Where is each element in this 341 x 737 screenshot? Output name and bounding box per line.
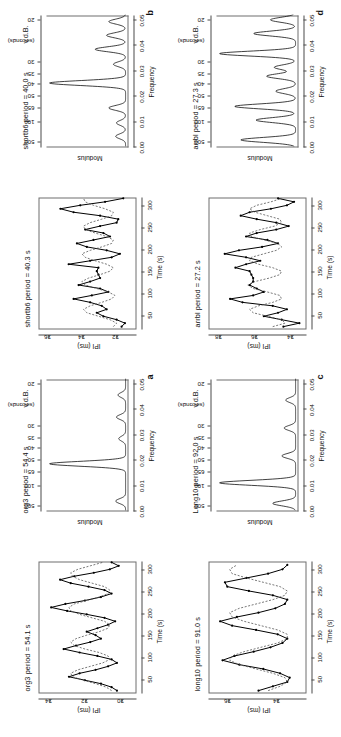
x-tick-mark <box>303 383 306 384</box>
period-tick-mark <box>37 383 40 384</box>
x-tick-mark <box>303 510 306 511</box>
period-tick-mark <box>207 121 210 122</box>
x-axis-label: Time (s) <box>325 255 332 279</box>
period-tick-mark <box>207 95 210 96</box>
period-tick-label: 35 <box>27 70 34 77</box>
period-tick-label: 50 <box>197 456 204 463</box>
period-tick-mark <box>207 141 210 142</box>
period-tick-label: 35 <box>197 70 204 77</box>
x-tick-label: 300 <box>315 562 322 576</box>
period-tick-label: 30 <box>197 58 204 65</box>
x-tick-mark <box>133 70 136 71</box>
x-axis <box>133 379 134 511</box>
x-tick-mark <box>141 249 144 250</box>
x-tick-label: 0.03 <box>307 62 314 80</box>
period-tick-mark <box>207 505 210 506</box>
period-tick-label: 30 <box>27 58 34 65</box>
x-tick-label: 250 <box>145 220 152 234</box>
period-tick-mark <box>37 459 40 460</box>
period-axis <box>210 15 211 147</box>
y-tick-label: 36 <box>40 333 54 340</box>
x-tick-label: 0.04 <box>307 400 314 418</box>
period-axis-unit: (seconds) <box>177 401 204 408</box>
y-tick-label: 36 <box>247 333 261 340</box>
x-tick-mark <box>303 485 306 486</box>
y-tick-label: 32 <box>108 333 122 340</box>
period-tick-label: 30 <box>197 422 204 429</box>
period-tick-label: 65 <box>27 104 34 111</box>
panel-b-spectrum: shortb6 period = 40.0 sv.d.B.50010065504… <box>16 7 166 177</box>
period-axis-unit: (seconds) <box>177 37 204 44</box>
x-tick-mark <box>133 95 136 96</box>
panel-letter-b: b <box>144 10 154 16</box>
period-tick-label: 20 <box>27 380 34 387</box>
x-tick-mark <box>311 227 314 228</box>
x-tick-mark <box>133 121 136 122</box>
spectrum-curve <box>46 378 128 510</box>
period-tick-mark <box>207 107 210 108</box>
plot-area <box>38 197 136 329</box>
panel-d-timeseries: arrbl period = 27.2 s50100150200250300Ti… <box>186 189 336 359</box>
period-tick-label: 100 <box>194 482 204 489</box>
period-tick-label: 35 <box>27 434 34 441</box>
x-tick-mark <box>311 591 314 592</box>
period-tick-label: 500 <box>194 138 204 145</box>
x-tick-label: 0.04 <box>137 400 144 418</box>
period-tick-mark <box>37 95 40 96</box>
plot-area <box>216 15 298 147</box>
x-tick-mark <box>141 613 144 614</box>
x-tick-mark <box>303 146 306 147</box>
x-tick-mark <box>141 315 144 316</box>
plot-area <box>46 15 128 147</box>
period-tick-label: 20 <box>197 16 204 23</box>
period-tick-label: 100 <box>24 482 34 489</box>
x-tick-label: 0.05 <box>307 11 314 29</box>
x-tick-mark <box>141 227 144 228</box>
panel-letter-a: a <box>144 374 154 379</box>
period-tick-mark <box>207 485 210 486</box>
period-tick-label: 65 <box>197 104 204 111</box>
panel-d-spectrum: arrbl period = 27.3 sv.d.B.5001006550403… <box>186 7 336 177</box>
period-tick-label: 500 <box>24 138 34 145</box>
x-tick-label: 0.05 <box>137 375 144 393</box>
period-tick-label: 500 <box>194 502 204 509</box>
x-tick-label: 250 <box>315 584 322 598</box>
x-tick-label: 0.02 <box>137 87 144 105</box>
x-tick-mark <box>141 569 144 570</box>
x-tick-mark <box>311 205 314 206</box>
plot-area <box>38 561 136 693</box>
period-tick-mark <box>207 437 210 438</box>
x-tick-mark <box>303 44 306 45</box>
timeseries-curves <box>209 560 307 692</box>
x-axis <box>141 561 142 693</box>
x-axis-label: Time (s) <box>155 255 162 279</box>
y-tick-label: 34 <box>283 333 297 340</box>
spectrum-curve <box>46 14 128 146</box>
period-tick-mark <box>37 505 40 506</box>
y-axis-label: IPI (ms) <box>77 706 100 713</box>
x-tick-mark <box>133 19 136 20</box>
period-axis <box>210 379 211 511</box>
x-tick-mark <box>303 95 306 96</box>
x-tick-mark <box>303 459 306 460</box>
x-tick-mark <box>133 510 136 511</box>
period-tick-label: 35 <box>197 434 204 441</box>
period-tick-mark <box>207 19 210 20</box>
x-tick-mark <box>141 635 144 636</box>
period-tick-label: 30 <box>27 422 34 429</box>
x-tick-label: 0.01 <box>307 113 314 131</box>
period-tick-mark <box>207 459 210 460</box>
x-tick-label: 150 <box>315 628 322 642</box>
x-tick-mark <box>303 434 306 435</box>
timeseries-curves <box>209 196 307 328</box>
period-tick-mark <box>207 447 210 448</box>
x-tick-label: 150 <box>145 264 152 278</box>
period-tick-label: 65 <box>197 468 204 475</box>
panel-title: long10 period = 91.0 s <box>192 616 201 691</box>
spectrum-curve <box>216 14 298 146</box>
x-tick-mark <box>141 271 144 272</box>
x-axis-label: Time (s) <box>155 619 162 643</box>
x-tick-label: 0.04 <box>137 36 144 54</box>
x-tick-label: 0.00 <box>307 502 314 520</box>
y-axis-label: Modulus <box>247 518 272 525</box>
